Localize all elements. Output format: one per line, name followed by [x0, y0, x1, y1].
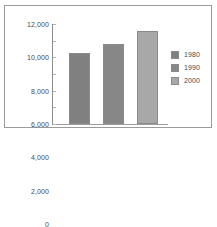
y-tick-label: 8,000	[31, 87, 49, 94]
y-tick-label: 12,000	[27, 21, 49, 28]
plot-area: 02,0004,0006,0008,00010,00012,000	[52, 24, 160, 124]
x-axis-baseline	[52, 124, 168, 125]
bar	[69, 53, 90, 124]
y-tick-label: 10,000	[27, 54, 49, 61]
y-tick-label: 6,000	[31, 121, 49, 128]
bar-series-group	[52, 24, 160, 124]
legend-swatch-icon	[171, 64, 179, 72]
legend-item-label: 2000	[184, 77, 200, 85]
legend-item: 2000	[171, 75, 215, 87]
y-tick-mark: 0	[53, 124, 56, 125]
legend-item: 1980	[171, 49, 215, 61]
legend-item: 1990	[171, 62, 215, 74]
chart-legend: 198019902000	[171, 49, 215, 88]
bar-chart-figure: 02,0004,0006,0008,00010,00012,000 198019…	[0, 0, 217, 133]
bar	[103, 44, 124, 124]
bar	[137, 31, 158, 124]
legend-swatch-icon	[171, 77, 179, 85]
legend-item-label: 1980	[184, 51, 200, 59]
legend-item-label: 1990	[184, 64, 200, 72]
chart-frame: 02,0004,0006,0008,00010,00012,000 198019…	[4, 5, 212, 128]
legend-swatch-icon	[171, 51, 179, 59]
